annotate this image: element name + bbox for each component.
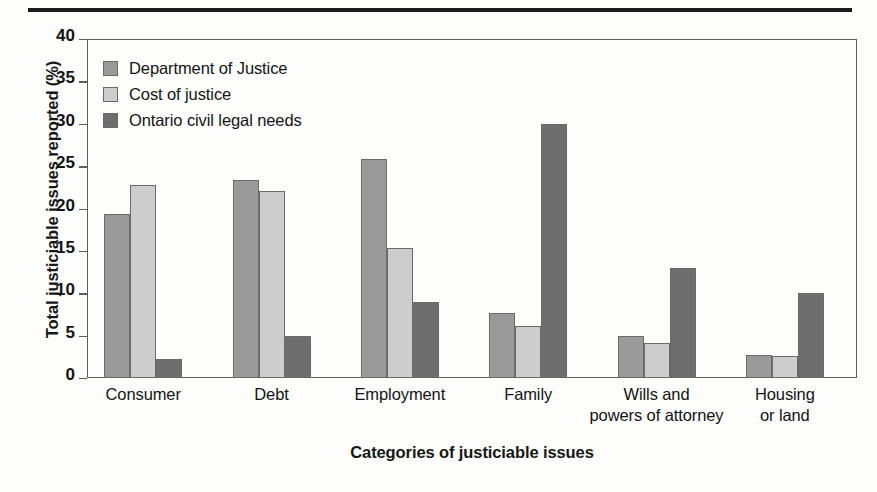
legend-item: Cost of justice bbox=[103, 81, 403, 107]
bar bbox=[233, 180, 259, 378]
y-axis-tick-mark bbox=[79, 124, 87, 125]
x-axis-tick-label: Housingor land bbox=[695, 384, 875, 426]
y-axis-tick: 20 bbox=[27, 209, 87, 210]
bar bbox=[644, 343, 670, 378]
y-axis-tick-label: 10 bbox=[56, 281, 75, 298]
y-axis-tick-label: 35 bbox=[56, 69, 75, 86]
y-axis-tick: 40 bbox=[27, 39, 87, 40]
legend-label: Department of Justice bbox=[129, 59, 287, 78]
legend-swatch-icon bbox=[103, 87, 118, 102]
y-axis-ticks: 0510152025303540 bbox=[27, 39, 87, 378]
y-axis-tick-mark bbox=[79, 378, 87, 379]
bar bbox=[798, 293, 824, 378]
bar bbox=[285, 336, 311, 378]
y-axis-tick-mark bbox=[79, 293, 87, 294]
x-axis-tick-labels: ConsumerDebtEmploymentFamilyWills andpow… bbox=[87, 384, 857, 438]
y-axis-tick-mark bbox=[79, 251, 87, 252]
bar-group bbox=[618, 39, 696, 378]
x-axis-tick-label-line: or land bbox=[695, 405, 875, 426]
bar bbox=[746, 355, 772, 378]
legend-label: Cost of justice bbox=[129, 85, 231, 104]
bar bbox=[541, 124, 567, 378]
bar bbox=[104, 214, 130, 378]
y-axis-tick-mark bbox=[79, 166, 87, 167]
y-axis-tick: 5 bbox=[27, 336, 87, 337]
bar bbox=[259, 191, 285, 378]
bar bbox=[130, 185, 156, 378]
y-axis-tick-mark bbox=[79, 336, 87, 337]
y-axis-tick: 10 bbox=[27, 293, 87, 294]
y-axis-tick-mark bbox=[79, 81, 87, 82]
bar bbox=[489, 313, 515, 378]
y-axis-tick: 35 bbox=[27, 81, 87, 82]
bar-group bbox=[746, 39, 824, 378]
legend-item: Ontario civil legal needs bbox=[103, 107, 403, 133]
chart-legend: Department of JusticeCost of justiceOnta… bbox=[103, 55, 403, 133]
y-axis-tick: 15 bbox=[27, 251, 87, 252]
y-axis-tick-label: 0 bbox=[66, 366, 75, 383]
bar bbox=[515, 326, 541, 378]
y-axis-tick-label: 25 bbox=[56, 154, 75, 171]
bar bbox=[670, 268, 696, 378]
legend-swatch-icon bbox=[103, 61, 118, 76]
y-axis-tick-label: 15 bbox=[56, 239, 75, 256]
legend-item: Department of Justice bbox=[103, 55, 403, 81]
bar bbox=[413, 302, 439, 378]
bar bbox=[387, 248, 413, 379]
bar bbox=[156, 359, 182, 378]
bar-chart-figure: Total justiciable issues reported (%) 05… bbox=[0, 0, 877, 492]
y-axis-tick-label: 40 bbox=[56, 27, 75, 44]
y-axis-tick: 25 bbox=[27, 166, 87, 167]
bar bbox=[772, 356, 798, 378]
legend-label: Ontario civil legal needs bbox=[129, 111, 302, 130]
x-axis-title: Categories of justiciable issues bbox=[87, 443, 857, 462]
y-axis-tick-label: 20 bbox=[56, 197, 75, 214]
y-axis-tick: 0 bbox=[27, 378, 87, 379]
y-axis-tick: 30 bbox=[27, 124, 87, 125]
legend-swatch-icon bbox=[103, 113, 118, 128]
bar bbox=[618, 336, 644, 378]
y-axis-tick-mark bbox=[79, 209, 87, 210]
bar-group bbox=[489, 39, 567, 378]
y-axis-tick-label: 5 bbox=[66, 324, 75, 341]
bar bbox=[361, 159, 387, 379]
x-axis-tick-label-line: Housing bbox=[695, 384, 875, 405]
y-axis-tick-mark bbox=[79, 39, 87, 40]
y-axis-tick-label: 30 bbox=[56, 112, 75, 129]
